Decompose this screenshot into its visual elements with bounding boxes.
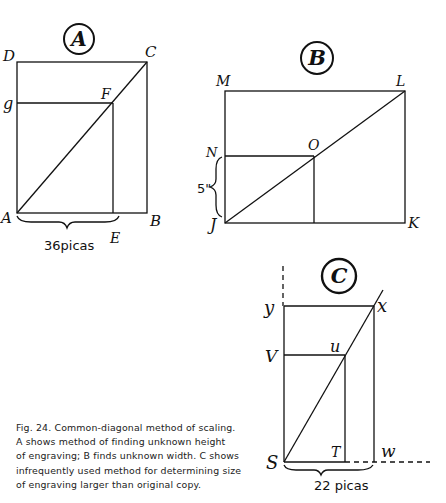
label-s: S	[266, 452, 278, 473]
label-t: T	[331, 444, 342, 460]
brace-b	[210, 157, 222, 217]
label-f: F	[100, 86, 112, 102]
label-b: B	[149, 212, 161, 230]
diagonal-j-l	[225, 91, 405, 223]
label-y: y	[263, 297, 275, 318]
label-a: A	[0, 209, 12, 227]
measure-5-inches: 5"	[197, 181, 211, 196]
label-g: g	[3, 94, 13, 113]
label-o: O	[308, 137, 320, 153]
badge-a: A	[69, 27, 87, 51]
label-v: V	[265, 346, 279, 366]
label-k: K	[407, 214, 420, 232]
label-l: L	[395, 73, 405, 89]
caption-line: infrequently used method for determining…	[16, 464, 238, 478]
badge-b: B	[307, 45, 326, 70]
diagonal-a-c	[17, 62, 147, 213]
figure-caption: Fig. 24. Common-diagonal method of scali…	[16, 421, 238, 492]
measure-22-picas: 22 picas	[314, 478, 369, 493]
caption-line: of engraving; B finds unknown width. C s…	[16, 449, 238, 463]
label-w: w	[381, 441, 396, 461]
diagram-a	[17, 24, 147, 228]
label-u: u	[330, 337, 340, 356]
label-j: J	[207, 215, 218, 234]
badge-c: C	[331, 263, 348, 288]
brace-c	[284, 465, 373, 475]
label-x: x	[377, 295, 387, 316]
label-c: C	[145, 43, 157, 61]
label-m: M	[215, 73, 231, 89]
figure-24: A B C D C g F A B E 36picas M L N O J K …	[0, 0, 446, 503]
label-d: D	[2, 47, 15, 65]
caption-line: Fig. 24. Common-diagonal method of scali…	[16, 421, 238, 435]
brace-a	[17, 216, 119, 228]
diagonal-s-x	[284, 290, 383, 462]
caption-line: A shows method of finding unknown height	[16, 435, 238, 449]
label-n: N	[205, 145, 218, 160]
diagram-c	[283, 259, 430, 475]
label-e: E	[109, 230, 120, 246]
caption-line: of engraving larger than original copy.	[16, 478, 238, 492]
measure-36-picas: 36picas	[44, 238, 95, 253]
